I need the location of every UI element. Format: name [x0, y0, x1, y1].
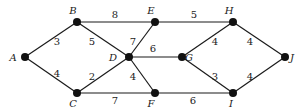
edge-weight-c-f: 7 [112, 95, 118, 106]
node-e-dot-icon [151, 18, 159, 26]
node-c-dot-icon [73, 89, 81, 97]
edge-weight-h-j: 4 [247, 36, 253, 47]
node-label-b: B [68, 5, 76, 16]
node-h-dot-icon [229, 18, 237, 26]
edge-weight-a-c: 4 [54, 68, 60, 79]
node-label-g: G [185, 52, 193, 63]
edge-weight-f-i: 6 [190, 95, 196, 106]
node-label-f: F [147, 98, 156, 109]
edge-weight-d-g: 6 [150, 43, 156, 54]
node-label-i: I [228, 98, 234, 109]
edge-i-j [233, 57, 285, 93]
edge-weight-a-b: 3 [54, 36, 60, 47]
node-i-dot-icon [229, 89, 237, 97]
node-label-a: A [8, 52, 16, 63]
node-label-j: J [288, 52, 295, 63]
edge-weight-b-d: 5 [89, 36, 95, 47]
edge-weight-d-e: 7 [130, 36, 136, 47]
edge-weight-d-f: 4 [130, 71, 136, 82]
node-f-dot-icon [151, 89, 159, 97]
node-d-dot-icon [125, 53, 133, 61]
edge-weight-b-e: 8 [112, 9, 118, 20]
node-label-d: D [108, 52, 117, 63]
node-j-dot-icon [281, 53, 289, 61]
edge-b-d [77, 22, 129, 57]
edge-weight-i-j: 4 [247, 71, 253, 82]
edge-h-j [233, 22, 285, 57]
edge-a-c [25, 57, 77, 93]
node-a-dot-icon [21, 53, 29, 61]
edges-layer [25, 22, 285, 93]
node-label-e: E [146, 5, 155, 16]
weighted-graph-diagram: 348527764564344 ABCDEFGHIJ [0, 0, 305, 112]
node-b-dot-icon [73, 18, 81, 26]
edge-weight-g-h: 4 [212, 36, 218, 47]
edge-c-d [77, 57, 129, 93]
edge-weight-e-h: 5 [191, 9, 197, 20]
node-label-h: H [224, 5, 234, 16]
edge-weight-c-d: 2 [89, 71, 95, 82]
edge-a-b [25, 22, 77, 57]
node-label-c: C [69, 98, 77, 109]
edge-weight-g-i: 3 [212, 71, 218, 82]
